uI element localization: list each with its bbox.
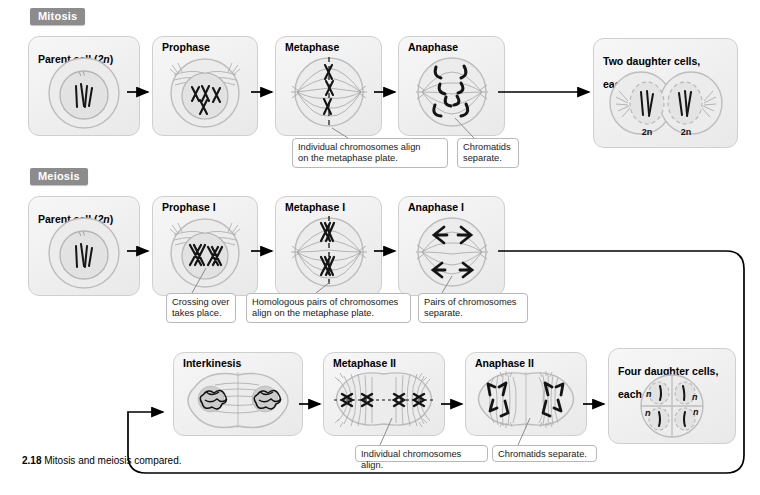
cell-illustration-prophase (153, 55, 257, 131)
figure-caption-number: 2.18 (22, 455, 41, 466)
stage-title-prophase: Prophase (162, 42, 210, 54)
stage-card-parent-cell[interactable]: Parent cell (2n) (28, 36, 140, 136)
stage-card-parent-cell-meiosis[interactable]: Parent cell (2n) (28, 196, 140, 296)
cell-illustration-prophase-i (153, 215, 257, 291)
stage-card-two-daughter-cells[interactable]: Two daughter cells, each 2n (593, 38, 738, 148)
stage-card-anaphase-ii[interactable]: Anaphase II (465, 352, 587, 436)
stage-card-metaphase-i[interactable]: Metaphase I (275, 196, 382, 296)
stage-card-interkinesis[interactable]: Interkinesis (173, 352, 303, 436)
stage-card-four-daughter-cells[interactable]: Four daughter cells, each n (608, 348, 736, 444)
figure-caption: 2.18 Mitosis and meiosis compared. (22, 455, 182, 466)
cell-illustration-anaphase-ii (466, 369, 586, 431)
cell-illustration-metaphase-i (276, 213, 381, 291)
cell-illustration-anaphase (399, 53, 504, 131)
cell-illustration-four-daughter-cells: n n n n (609, 373, 735, 439)
callout-metaphase-ii-note: Individual chromosomes align. (355, 445, 488, 462)
cell-illustration-parent-cell (29, 55, 139, 131)
daughter-cell-label-2: 2n (680, 127, 691, 137)
figure-caption-text: Mitosis and meiosis compared. (44, 455, 181, 466)
cell-illustration-two-daughter-cells: 2n 2n (594, 63, 737, 143)
cell-illustration-anaphase-i (399, 213, 504, 291)
stage-title-anaphase-i: Anaphase I (408, 202, 464, 214)
callout-anaphase-i-note: Pairs of chromosomes separate. (418, 293, 528, 323)
cell-illustration-metaphase-ii (324, 369, 444, 431)
stage-title-interkinesis: Interkinesis (183, 358, 241, 370)
daughter-cell-label-1: 2n (641, 127, 652, 137)
section-badge-meiosis: Meiosis (30, 168, 88, 185)
stage-title-anaphase: Anaphase (408, 42, 458, 54)
stage-card-prophase-i[interactable]: Prophase I (152, 196, 258, 296)
figure-mitosis-meiosis-compared: Mitosis Meiosis Parent cell (2n) Prophas… (0, 0, 760, 495)
cell-illustration-interkinesis (174, 369, 302, 431)
stage-card-metaphase[interactable]: Metaphase (275, 36, 382, 136)
callout-anaphase-ii-note: Chromatids separate. (492, 445, 597, 462)
stage-title-metaphase-ii: Metaphase II (333, 358, 396, 370)
stage-title-metaphase: Metaphase (285, 42, 339, 54)
daughter-cell-label-n-2: n (692, 392, 698, 402)
stage-card-metaphase-ii[interactable]: Metaphase II (323, 352, 445, 436)
daughter-cell-label-n-4: n (693, 407, 699, 417)
cell-illustration-parent-cell-meiosis (29, 215, 139, 291)
stage-card-anaphase-i[interactable]: Anaphase I (398, 196, 505, 296)
stage-card-anaphase[interactable]: Anaphase (398, 36, 505, 136)
daughter-cell-label-n-1: n (646, 389, 652, 399)
stage-title-anaphase-ii: Anaphase II (475, 358, 534, 370)
stage-title-prophase-i: Prophase I (162, 202, 216, 214)
daughter-cell-label-n-3: n (645, 408, 651, 418)
callout-metaphase-note: Individual chromosomes align on the meta… (292, 138, 448, 168)
callout-anaphase-note: Chromatids separate. (457, 138, 519, 168)
stage-card-prophase[interactable]: Prophase (152, 36, 258, 136)
section-badge-mitosis: Mitosis (30, 8, 85, 25)
cell-illustration-metaphase (276, 53, 381, 131)
stage-title-metaphase-i: Metaphase I (285, 202, 345, 214)
callout-prophase-i-note: Crossing over takes place. (166, 293, 236, 323)
callout-metaphase-i-note: Homologous pairs of chromosomes align on… (246, 293, 411, 323)
